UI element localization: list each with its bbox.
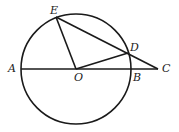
segment-ec (56, 17, 158, 69)
point-label-a: A (7, 62, 16, 75)
geometry-diagram: ABCDEO (0, 0, 179, 132)
point-label-b: B (132, 71, 141, 84)
segment-od (76, 53, 128, 69)
point-label-o: O (74, 71, 83, 84)
point-label-e: E (49, 4, 58, 17)
point-label-d: D (129, 41, 139, 54)
point-label-c: C (162, 62, 171, 75)
